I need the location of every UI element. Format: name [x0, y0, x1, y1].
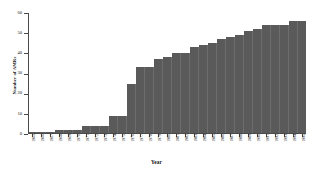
- bar: [136, 67, 145, 134]
- bar: [271, 25, 280, 134]
- x-tick-label-slot: 1973: [100, 138, 109, 158]
- x-tick-label-slot: 1993: [279, 138, 288, 158]
- bar: [217, 39, 226, 134]
- chart-figure: Number of AMRs 0102030405060 19651966196…: [0, 0, 313, 173]
- bar: [262, 25, 271, 134]
- bar: [235, 35, 244, 134]
- x-tick-label-slot: 1988: [234, 138, 243, 158]
- bar: [109, 116, 118, 134]
- x-tick-label-slot: 1991: [261, 138, 270, 158]
- x-tick-label-slot: 1987: [225, 138, 234, 158]
- y-tick-label: 50: [0, 31, 22, 36]
- bar: [298, 21, 306, 134]
- x-tick-label: 1995: [302, 134, 306, 142]
- x-tick-label-slot: 1992: [270, 138, 279, 158]
- y-tick-label: 0: [0, 132, 22, 137]
- y-axis-line: [28, 13, 29, 134]
- y-tick-label: 10: [0, 112, 22, 117]
- bar: [190, 47, 199, 134]
- x-tick-label-slot: 1980: [163, 138, 172, 158]
- bar: [244, 31, 253, 134]
- x-tick-label-slot: 1977: [136, 138, 145, 158]
- x-tick-label-slot: 1976: [127, 138, 136, 158]
- x-tick-label-slot: 1986: [216, 138, 225, 158]
- bar: [199, 45, 208, 134]
- y-tick-label: 20: [0, 91, 22, 96]
- y-tick-label: 30: [0, 71, 22, 76]
- bar: [208, 43, 217, 134]
- x-axis-tick-labels: 1965196619671968196919701971197219731974…: [28, 138, 306, 158]
- x-tick-label-slot: 1975: [118, 138, 127, 158]
- y-tick-label: 60: [0, 11, 22, 16]
- plot-area: [28, 13, 306, 134]
- bar: [145, 67, 154, 134]
- x-tick-label-slot: 1982: [180, 138, 189, 158]
- y-tick-label: 40: [0, 51, 22, 56]
- x-tick-label-slot: 1965: [28, 138, 37, 158]
- x-tick-label-slot: 1990: [252, 138, 261, 158]
- x-tick-label-slot: 1974: [109, 138, 118, 158]
- x-tick-label-slot: 1983: [189, 138, 198, 158]
- bar: [280, 25, 289, 134]
- x-tick-label-slot: 1981: [172, 138, 181, 158]
- x-tick-label-slot: 1972: [91, 138, 100, 158]
- bar: [289, 21, 298, 134]
- x-tick-label-slot: 1979: [154, 138, 163, 158]
- bar: [181, 53, 190, 134]
- x-tick-label-slot: 1989: [243, 138, 252, 158]
- x-tick-label-slot: 1967: [46, 138, 55, 158]
- x-tick-label-slot: 1995: [297, 138, 306, 158]
- bar-series: [28, 13, 306, 134]
- x-tick-label-slot: 1994: [288, 138, 297, 158]
- x-tick-label-slot: 1978: [145, 138, 154, 158]
- bar: [154, 59, 163, 134]
- bar: [172, 53, 181, 134]
- bar: [253, 29, 262, 134]
- x-tick-label-slot: 1971: [82, 138, 91, 158]
- x-tick-label-slot: 1969: [64, 138, 73, 158]
- x-axis-title: Year: [0, 159, 313, 165]
- x-tick-label-slot: 1985: [207, 138, 216, 158]
- bar: [118, 116, 127, 134]
- bar: [226, 37, 235, 134]
- bar: [127, 84, 136, 134]
- x-tick-label-slot: 1970: [73, 138, 82, 158]
- x-tick-label-slot: 1966: [37, 138, 46, 158]
- x-tick-label-slot: 1968: [55, 138, 64, 158]
- bar: [163, 57, 172, 134]
- x-tick-label-slot: 1984: [198, 138, 207, 158]
